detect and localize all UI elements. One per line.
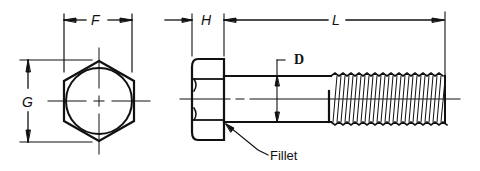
label-G: G <box>22 95 33 109</box>
label-F: F <box>91 13 100 27</box>
label-D: D <box>294 53 304 67</box>
label-L: L <box>332 13 340 27</box>
bolt-drawing <box>0 0 480 171</box>
label-fillet: Fillet <box>270 149 297 162</box>
label-H: H <box>201 13 211 27</box>
hex-end-view <box>20 14 150 154</box>
bolt-side-view <box>165 12 460 155</box>
